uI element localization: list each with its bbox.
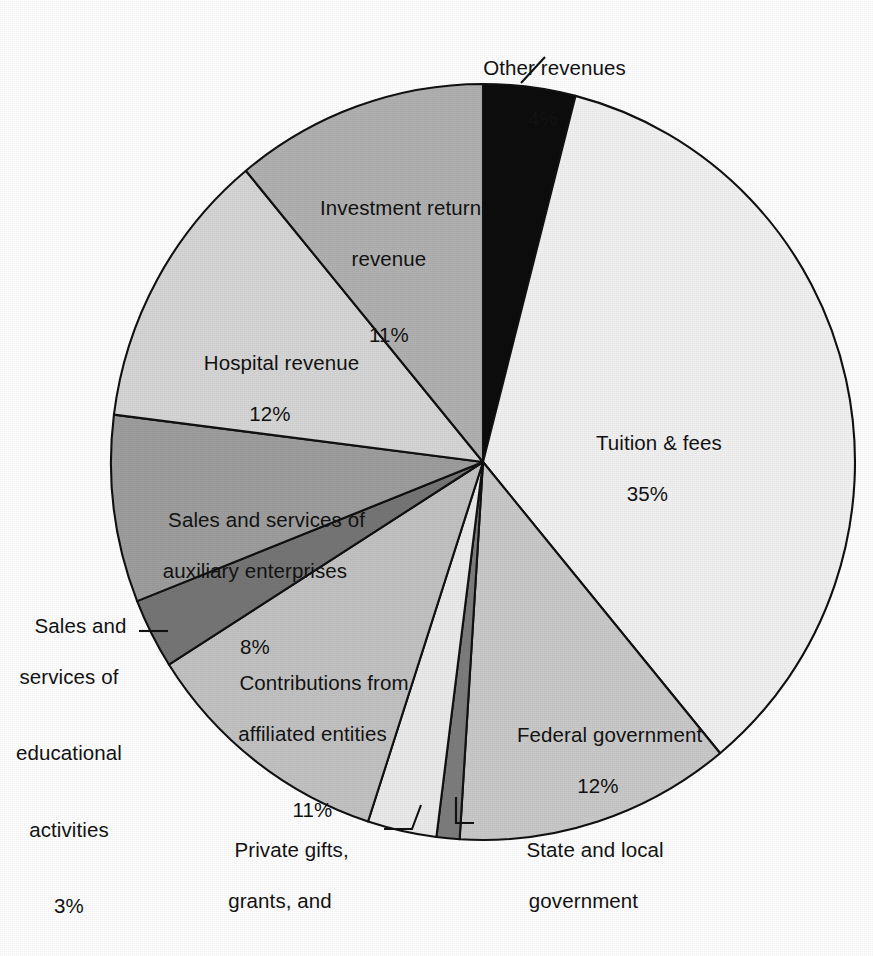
label-contributions-pct: 11% — [185, 797, 440, 822]
label-federal-government-text: Federal government — [517, 723, 702, 746]
label-other-revenues-pct: 4% — [418, 106, 668, 131]
label-other-revenues: Other revenues 4% — [418, 30, 668, 182]
label-auxiliary-enterprises: Sales and services of auxiliary enterpri… — [110, 482, 400, 711]
label-educational-activities-line3: educational — [0, 740, 140, 765]
label-tuition-fees-text: Tuition & fees — [596, 431, 722, 454]
label-federal-government-pct: 12% — [472, 773, 724, 798]
label-state-local-line1: State and local — [527, 838, 664, 861]
label-educational-activities-pct: 3% — [0, 893, 140, 918]
label-other-revenues-text: Other revenues — [483, 56, 626, 79]
label-investment-return-pct: 11% — [265, 322, 513, 347]
label-educational-activities-line4: activities — [0, 817, 140, 842]
label-investment-return-line1: Investment return — [320, 196, 481, 219]
pie-chart: Other revenues 4% Tuition & fees 35% Fed… — [0, 0, 873, 956]
label-auxiliary-enterprises-line2: auxiliary enterprises — [110, 558, 400, 583]
label-investment-return: Investment return revenue 11% — [265, 170, 513, 399]
label-state-local-line2: government — [476, 888, 691, 913]
label-tuition-fees: Tuition & fees 35% — [525, 405, 770, 557]
label-auxiliary-enterprises-pct: 8% — [110, 634, 400, 659]
label-investment-return-line2: revenue — [265, 246, 513, 271]
label-state-local: State and local government 1% — [476, 812, 691, 956]
label-private-gifts-line2: grants, and — [175, 888, 385, 913]
label-tuition-fees-pct: 35% — [525, 481, 770, 506]
label-contributions-line2: affiliated entities — [185, 721, 440, 746]
label-hospital-revenue-pct: 12% — [140, 401, 400, 426]
label-auxiliary-enterprises-line1: Sales and services of — [168, 508, 365, 531]
